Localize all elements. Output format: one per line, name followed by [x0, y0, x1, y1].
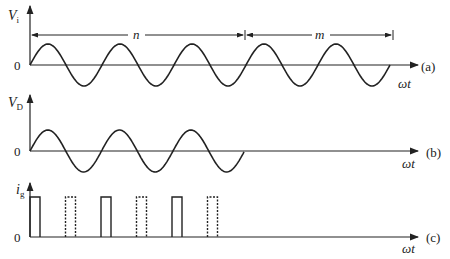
panel-b: VD 0 ωt (b): [8, 95, 441, 172]
panel-tag-a: (a): [421, 59, 435, 74]
panel-a: Vi 0 ωt (a) n m: [8, 6, 435, 91]
x-label-b: ωt: [402, 156, 415, 171]
x-label-a: ωt: [398, 76, 411, 91]
panel-c: ig 0 ωt (c): [14, 182, 440, 256]
y-label-c: ig: [16, 182, 25, 199]
interval-m-label: m: [315, 27, 324, 42]
interval-n-label: n: [133, 27, 140, 42]
panel-tag-b: (b): [426, 145, 441, 160]
zero-label-a: 0: [14, 58, 21, 73]
gate-pulse-dashed: [137, 197, 147, 237]
y-label-b: VD: [8, 95, 24, 112]
x-label-c: ωt: [402, 241, 415, 256]
zero-label-c: 0: [14, 230, 21, 245]
zero-label-b: 0: [14, 144, 21, 159]
y-label-a: Vi: [8, 8, 20, 25]
gate-pulse-train: [30, 197, 218, 237]
gate-pulse-dashed: [66, 197, 76, 237]
waveform-figure: Vi 0 ωt (a) n m VD 0 ωt (b) ig 0 ωt (c): [0, 0, 450, 259]
gate-pulse-solid: [30, 197, 40, 237]
gate-pulse-solid: [172, 197, 182, 237]
panel-tag-c: (c): [426, 230, 440, 245]
gate-pulse-solid: [101, 197, 111, 237]
gate-pulse-dashed: [208, 197, 218, 237]
